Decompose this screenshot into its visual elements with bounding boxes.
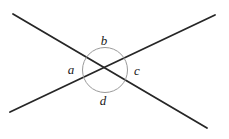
geometry-figure: b a c d bbox=[0, 0, 229, 139]
angle-label-c: c bbox=[134, 64, 140, 77]
angle-label-b: b bbox=[101, 34, 108, 47]
diagram-canvas bbox=[0, 0, 229, 139]
descending-line bbox=[13, 14, 207, 128]
angle-label-d: d bbox=[100, 94, 107, 107]
intersection-circle bbox=[83, 48, 128, 93]
angle-label-a: a bbox=[68, 63, 75, 76]
